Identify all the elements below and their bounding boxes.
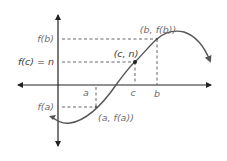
label-fc-equals-n: f(c) = n — [18, 56, 54, 67]
label-fb: f(b) — [37, 33, 54, 44]
label-point-c: (c, n) — [114, 48, 139, 59]
label-point-b: (b, f(b)) — [140, 24, 176, 35]
label-c: c — [130, 87, 136, 98]
dashed-guides — [62, 39, 157, 107]
point-c-n — [133, 60, 137, 64]
label-a: a — [83, 87, 89, 98]
function-curve — [52, 31, 210, 123]
point-a-fa — [95, 106, 97, 108]
label-fa: f(a) — [37, 101, 54, 112]
label-point-a: (a, f(a)) — [98, 112, 134, 123]
point-b-fb — [156, 38, 158, 40]
label-b: b — [154, 88, 160, 99]
ivt-diagram: f(b) f(c) = n f(a) a c b (b, f(b)) (c, n… — [0, 0, 227, 161]
